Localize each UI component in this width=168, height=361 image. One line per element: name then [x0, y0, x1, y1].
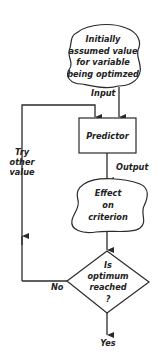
decision-line-1: Is — [104, 260, 112, 270]
decision-line-2: optimum — [87, 271, 129, 281]
decision-line-4: ? — [106, 294, 111, 304]
input-label: Input — [91, 88, 117, 98]
output-label: Output — [116, 162, 149, 172]
effect-line-1: Effect — [95, 188, 123, 198]
predictor-label: Predictor — [86, 131, 129, 141]
decision-line-3: reached — [89, 282, 126, 292]
yes-label: Yes — [100, 338, 115, 348]
start-line-1: Initially — [86, 34, 122, 44]
effect-line-3: criterion — [88, 212, 128, 222]
flowchart: Initially assumed value for variable bei… — [0, 0, 168, 361]
start-line-3: for variable — [76, 57, 130, 67]
effect-line-2: on — [102, 200, 114, 210]
start-line-4: being optimzed — [67, 69, 139, 79]
no-label: No — [51, 282, 64, 292]
start-line-2: assumed value — [69, 46, 138, 56]
